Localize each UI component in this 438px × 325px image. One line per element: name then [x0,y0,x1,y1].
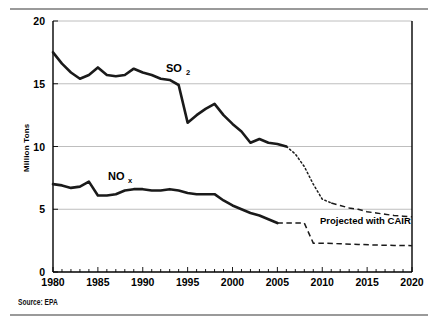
nox-series-label: NO [108,170,125,182]
plot-area: 198019851990199520002005201020152020 051… [0,0,438,325]
y-tick-label: 15 [33,78,45,90]
y-tick-label: 20 [33,15,45,27]
x-tick-label: 1990 [131,276,155,288]
gridlines [53,21,412,209]
x-tick-label: 2015 [355,276,379,288]
x-tick-label: 2005 [266,276,290,288]
series-line-nox-projected [277,223,412,246]
so2-series-label: SO [166,62,182,74]
x-tick-label: 2020 [400,276,424,288]
y-axis-title: Million Tons [22,123,31,172]
so2-series-label-subscript: 2 [186,68,190,77]
series-line-so2-projected-dotted [286,147,331,203]
x-tick-label: 1985 [86,276,110,288]
x-tick-label: 2010 [311,276,335,288]
source-note: Source: EPA [18,297,58,307]
x-tick-label: 2000 [221,276,245,288]
y-tick-labels: 05101520 [33,15,45,278]
x-tick-label: 1995 [176,276,200,288]
y-tick-label: 0 [39,266,45,278]
chart-page: 198019851990199520002005201020152020 051… [0,0,438,325]
y-tick-label: 10 [33,141,45,153]
line-chart: 198019851990199520002005201020152020 051… [0,0,438,325]
series-line-nox [53,182,277,223]
x-tick-labels: 198019851990199520002005201020152020 [41,276,424,288]
nox-series-label-subscript: x [128,176,133,185]
y-tick-label: 5 [39,203,45,215]
projected-with-cair-label: Projected with CAIR [320,215,411,226]
